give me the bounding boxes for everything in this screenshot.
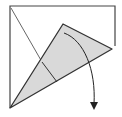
origami-diagram bbox=[0, 0, 122, 117]
diagonal-crease bbox=[11, 8, 42, 62]
folded-flap bbox=[10, 24, 112, 108]
